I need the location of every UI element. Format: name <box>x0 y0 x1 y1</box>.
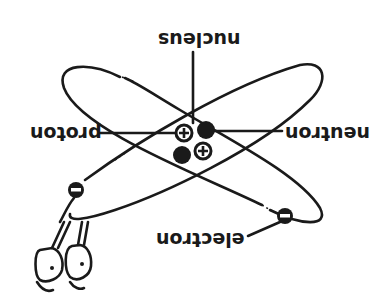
nucleus <box>173 121 215 164</box>
electron-pointer-line <box>248 222 280 236</box>
character-leg-left <box>52 222 64 248</box>
character-shadow-right <box>70 282 84 289</box>
electron-particle <box>277 208 293 224</box>
neutron-particle <box>197 121 215 139</box>
electron-label: electron <box>156 230 245 249</box>
character-shadow-left <box>37 282 53 291</box>
character-foot-right <box>66 245 91 279</box>
character-leg-left-b <box>58 222 70 248</box>
electron-particle <box>68 182 84 198</box>
atom-diagram: nucleus proton neutron electron <box>0 0 392 304</box>
character-leg-right-b <box>84 222 88 245</box>
character-dot <box>80 262 84 266</box>
character-dot <box>50 266 54 270</box>
neutron-label: neutron <box>285 124 370 143</box>
neutron-particle <box>173 146 191 164</box>
proton-label: proton <box>30 124 102 143</box>
character-foot-left <box>36 248 63 281</box>
character-leg-right <box>78 222 82 245</box>
nucleus-label: nucleus <box>158 30 241 49</box>
